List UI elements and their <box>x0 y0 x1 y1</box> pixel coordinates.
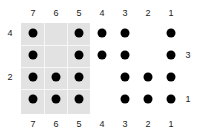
dot-r2-c2 <box>144 73 153 82</box>
dot-r2-c1 <box>167 73 176 82</box>
column-label-bottom-3: 3 <box>122 120 127 129</box>
column-label-top-4: 4 <box>99 9 104 18</box>
shade-gridline-vertical-1 <box>67 23 68 114</box>
shade-gridline-horizontal-2 <box>21 89 90 90</box>
dot-r1-c3 <box>121 95 130 104</box>
dot-r2-c5 <box>75 73 84 82</box>
column-label-bottom-7: 7 <box>30 120 35 129</box>
row-label-left-4: 4 <box>7 29 12 38</box>
column-label-bottom-6: 6 <box>53 120 58 129</box>
shade-gridline-horizontal-1 <box>21 67 90 68</box>
dot-r2-c7 <box>29 73 38 82</box>
column-label-top-2: 2 <box>145 9 150 18</box>
dot-r2-c6 <box>52 73 61 82</box>
dot-r3-c7 <box>29 51 38 60</box>
dot-r4-c5 <box>75 29 84 38</box>
shade-gridline-horizontal-0 <box>21 45 90 46</box>
dot-r1-c7 <box>29 95 38 104</box>
column-label-bottom-2: 2 <box>145 120 150 129</box>
column-label-top-1: 1 <box>168 9 173 18</box>
dot-matrix-figure: 7654321 7654321 42 31 <box>0 0 202 139</box>
column-label-bottom-1: 1 <box>168 120 173 129</box>
row-label-right-3: 3 <box>185 51 190 60</box>
row-label-right-1: 1 <box>185 95 190 104</box>
column-label-top-6: 6 <box>53 9 58 18</box>
dot-r4-c3 <box>121 29 130 38</box>
dot-r1-c6 <box>52 95 61 104</box>
row-label-left-2: 2 <box>7 73 12 82</box>
dot-r1-c5 <box>75 95 84 104</box>
column-label-top-5: 5 <box>76 9 81 18</box>
dot-r3-c3 <box>121 51 130 60</box>
dot-r4-c1 <box>167 29 176 38</box>
dot-r4-c4 <box>98 29 107 38</box>
dot-r3-c1 <box>167 51 176 60</box>
shade-gridline-vertical-0 <box>44 23 45 114</box>
dot-r2-c3 <box>121 73 130 82</box>
dot-r1-c1 <box>167 95 176 104</box>
dot-r3-c4 <box>98 51 107 60</box>
column-label-bottom-5: 5 <box>76 120 81 129</box>
column-label-top-3: 3 <box>122 9 127 18</box>
column-label-top-7: 7 <box>30 9 35 18</box>
dot-r3-c5 <box>75 51 84 60</box>
dot-r4-c7 <box>29 29 38 38</box>
dot-r1-c2 <box>144 95 153 104</box>
column-label-bottom-4: 4 <box>99 120 104 129</box>
